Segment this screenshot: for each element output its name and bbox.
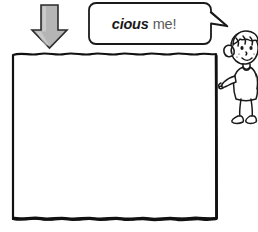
girl-freckle-3 bbox=[253, 53, 254, 54]
cartoon-girl-illustration bbox=[0, 0, 258, 232]
girl-shoe-left bbox=[232, 116, 244, 124]
worksheet-page: ciousme! bbox=[0, 0, 258, 232]
girl-eye-right bbox=[249, 46, 252, 50]
girl-freckle-1 bbox=[238, 53, 239, 54]
girl-eye-left bbox=[240, 46, 243, 50]
girl-freckle-2 bbox=[236, 56, 237, 57]
girl-leg-left bbox=[240, 99, 241, 117]
girl-nose bbox=[246, 52, 247, 55]
girl-dress bbox=[234, 67, 258, 101]
girl-shoe-right bbox=[246, 116, 257, 124]
girl-leg-right bbox=[251, 99, 252, 117]
